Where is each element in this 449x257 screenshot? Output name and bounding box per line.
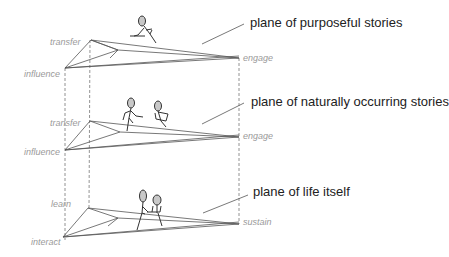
figure-person-right-icon (147, 195, 162, 226)
figure-person-left-icon (137, 190, 148, 230)
plane-label-natural: plane of naturally occurring stories (251, 95, 449, 108)
plane-label-life: plane of life itself (253, 185, 350, 198)
plane-natural-triangle (65, 121, 239, 150)
label-influence-middle: influence (24, 148, 60, 157)
label-pointer-lines (202, 24, 248, 213)
label-engage-top: engage (243, 54, 273, 63)
figure-listener-right-icon (155, 101, 169, 127)
label-learn: learn (51, 200, 71, 209)
label-interact: interact (31, 238, 61, 247)
label-influence-top: influence (24, 70, 60, 79)
label-transfer-top: transfer (50, 38, 81, 47)
label-transfer-middle: transfer (50, 119, 81, 128)
plane-purposeful-triangle (65, 40, 239, 68)
figure-writer-icon (130, 16, 156, 43)
plane-label-purposeful: plane of purposeful stories (250, 16, 402, 29)
label-engage-middle: engage (243, 132, 273, 141)
label-sustain: sustain (243, 218, 272, 227)
